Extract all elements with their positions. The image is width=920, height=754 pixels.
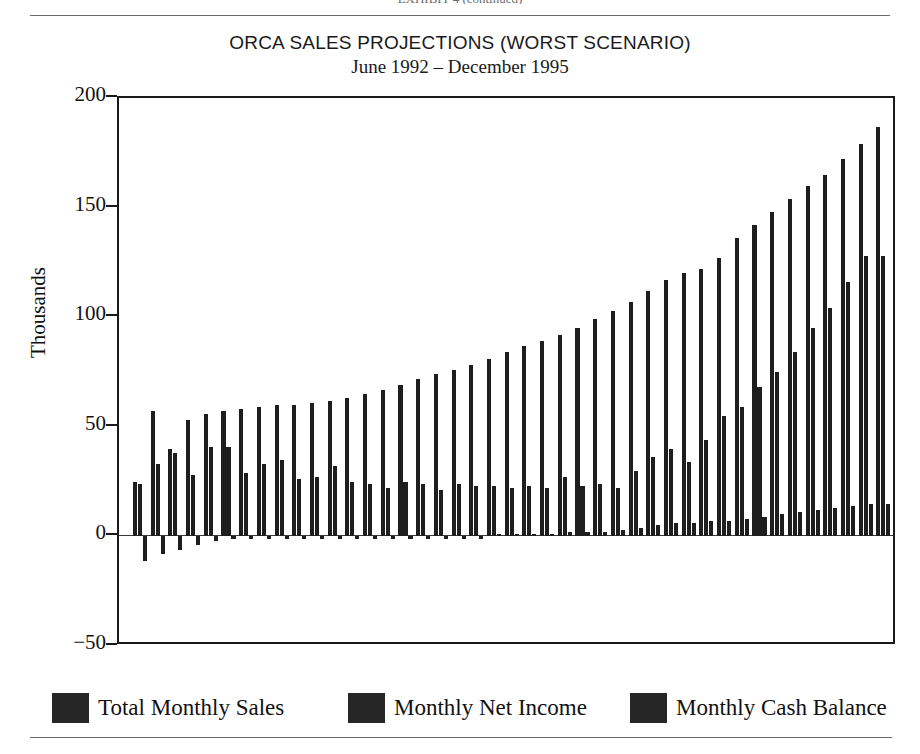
bar <box>656 525 660 536</box>
bar <box>682 273 686 536</box>
bar <box>651 457 655 536</box>
bar <box>540 341 544 536</box>
bar <box>398 385 402 536</box>
y-tick-label-200: 200 <box>36 84 106 105</box>
bar <box>408 536 412 538</box>
bar <box>876 127 880 537</box>
bar <box>143 536 147 560</box>
bar <box>727 521 731 536</box>
bar <box>664 280 668 536</box>
bar <box>798 512 802 536</box>
bar <box>168 449 172 537</box>
bar <box>568 532 572 536</box>
y-tick-label-50: 50 <box>36 413 106 434</box>
bar <box>355 536 359 538</box>
bar <box>204 414 208 537</box>
bar <box>859 144 863 536</box>
legend-swatch-total-monthly-sales <box>52 693 89 723</box>
bar <box>740 407 744 536</box>
bar <box>775 372 779 536</box>
chart-title: ORCA SALES PROJECTIONS (WORST SCENARIO) <box>0 32 920 54</box>
bar <box>173 453 177 536</box>
bar <box>558 335 562 537</box>
bar <box>257 407 261 536</box>
top-divider-rule <box>30 15 890 16</box>
bar <box>474 486 478 536</box>
y-tick-0 <box>106 533 117 535</box>
bar <box>310 403 314 537</box>
bar <box>745 519 749 537</box>
bar <box>457 484 461 537</box>
bar <box>593 319 597 536</box>
bar <box>373 536 377 538</box>
bar <box>881 256 885 537</box>
bar <box>350 482 354 537</box>
bar <box>816 510 820 536</box>
bar <box>338 536 342 538</box>
bar <box>368 484 372 537</box>
bar <box>280 460 284 537</box>
bar <box>527 486 531 536</box>
bar <box>178 536 182 549</box>
bar <box>328 401 332 537</box>
chart-page: EXHIBIT 4 (continued) ORCA SALES PROJECT… <box>0 0 920 754</box>
y-tick-50 <box>106 424 117 426</box>
bar <box>869 504 873 537</box>
bar <box>692 523 696 536</box>
y-tick--50 <box>106 643 117 645</box>
bar <box>161 536 165 554</box>
bar <box>669 449 673 537</box>
bar <box>841 159 845 536</box>
y-axis-title: Thousands <box>26 213 51 413</box>
bar <box>381 390 385 537</box>
bar <box>231 536 235 538</box>
bar <box>292 405 296 537</box>
chart-legend: Total Monthly Sales Monthly Net Income M… <box>30 688 892 732</box>
bottom-divider-rule <box>30 737 892 738</box>
bar <box>469 365 473 536</box>
bar <box>598 484 602 537</box>
bar <box>510 488 514 536</box>
bar <box>515 534 519 536</box>
bar <box>811 328 815 536</box>
bar <box>757 387 761 536</box>
legend-item-monthly-net-income: Monthly Net Income <box>348 688 587 728</box>
bar <box>735 238 739 536</box>
bar <box>886 504 890 537</box>
bar <box>722 416 726 537</box>
bar <box>416 379 420 537</box>
bar <box>770 212 774 536</box>
bar <box>846 282 850 536</box>
bar <box>138 484 142 537</box>
chart-subtitle: June 1992 – December 1995 <box>0 56 920 78</box>
bar <box>434 374 438 536</box>
bar <box>864 256 868 537</box>
bar <box>239 409 243 536</box>
bar <box>403 482 407 537</box>
bar <box>151 411 155 536</box>
bar <box>320 536 324 538</box>
y-tick-150 <box>106 205 117 207</box>
bar <box>780 514 784 536</box>
legend-item-total-monthly-sales: Total Monthly Sales <box>52 688 284 728</box>
bar <box>226 447 230 537</box>
bar <box>345 398 349 536</box>
bar <box>191 475 195 536</box>
bar <box>646 291 650 537</box>
bar <box>452 370 456 537</box>
bar <box>302 536 306 538</box>
y-tick-label--50: −50 <box>36 632 106 653</box>
bar <box>762 517 766 537</box>
bar <box>788 199 792 537</box>
bar <box>823 175 827 537</box>
legend-label-monthly-cash-balance: Monthly Cash Balance <box>676 695 887 721</box>
bar <box>545 488 549 536</box>
bar <box>492 486 496 536</box>
bar <box>639 528 643 537</box>
bar <box>806 186 810 537</box>
bar <box>363 394 367 536</box>
bar <box>616 488 620 536</box>
bar <box>421 484 425 537</box>
bar <box>479 536 483 538</box>
bar <box>133 482 137 537</box>
